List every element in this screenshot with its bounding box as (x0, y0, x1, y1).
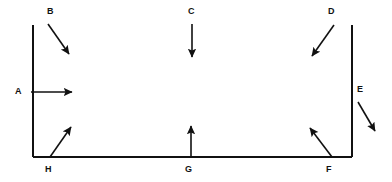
arrow-f (310, 128, 332, 157)
diagram-graphics (0, 0, 392, 182)
arrow-b (48, 24, 69, 54)
vertex-label-e: E (357, 85, 363, 94)
vertex-label-b: B (47, 7, 54, 16)
vertex-label-f: F (326, 165, 332, 174)
arrow-d (312, 25, 334, 56)
diagram-canvas: A B C D E F G H (0, 0, 392, 182)
vertex-label-c: C (188, 7, 195, 16)
arrow-e (358, 102, 375, 131)
vertex-label-g: G (185, 165, 192, 174)
arrow-h (50, 127, 71, 157)
vertex-label-d: D (328, 7, 335, 16)
vertex-label-a: A (15, 87, 22, 96)
vertex-label-h: H (45, 165, 52, 174)
arrow-group (31, 24, 375, 158)
